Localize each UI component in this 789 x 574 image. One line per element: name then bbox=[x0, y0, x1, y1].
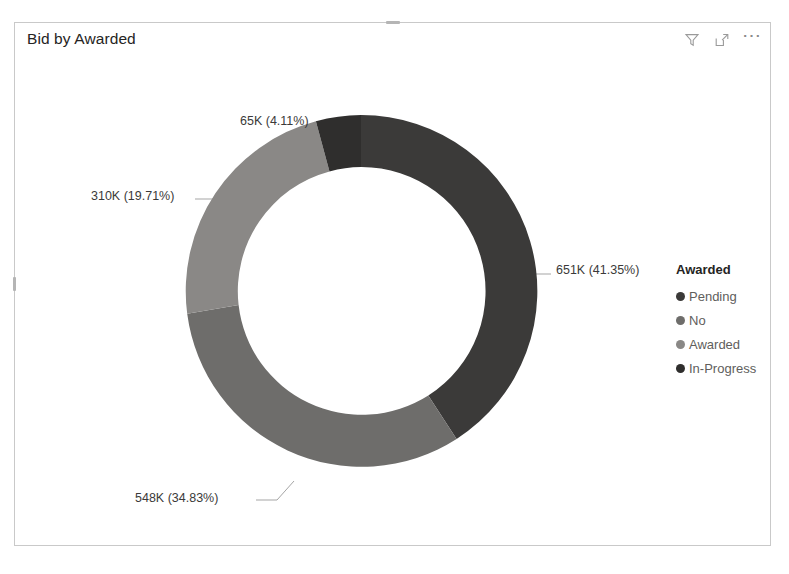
chart-plot-area: 65K (4.11%) 310K (19.71%) 548K (34.83%) … bbox=[15, 57, 770, 545]
legend-item-in-progress[interactable]: In-Progress bbox=[676, 356, 772, 380]
visual-card[interactable]: Bid by Awarded ⋯ bbox=[14, 22, 771, 546]
data-label-no: 548K (34.83%) bbox=[135, 491, 218, 505]
page-title: Bid by Awarded bbox=[27, 30, 136, 48]
legend-item-label: In-Progress bbox=[689, 361, 756, 376]
donut-slice-no[interactable] bbox=[187, 305, 456, 467]
visual-header: Bid by Awarded ⋯ bbox=[15, 23, 770, 57]
more-options-icon[interactable]: ⋯ bbox=[743, 31, 760, 48]
data-label-awarded: 310K (19.71%) bbox=[91, 189, 174, 203]
legend-color-dot bbox=[676, 316, 685, 325]
legend-item-pending[interactable]: Pending bbox=[676, 284, 772, 308]
donut-chart-svg[interactable] bbox=[175, 105, 547, 477]
legend-item-awarded[interactable]: Awarded bbox=[676, 332, 772, 356]
legend-color-dot bbox=[676, 292, 685, 301]
legend-item-label: Awarded bbox=[689, 337, 740, 352]
donut-chart[interactable] bbox=[175, 105, 547, 477]
legend-item-label: No bbox=[689, 313, 706, 328]
filter-icon[interactable] bbox=[683, 31, 700, 48]
legend-item-label: Pending bbox=[689, 289, 737, 304]
data-label-in-progress: 65K (4.11%) bbox=[240, 114, 309, 128]
legend-title: Awarded bbox=[676, 262, 772, 277]
donut-slice-awarded[interactable] bbox=[186, 121, 330, 314]
legend-color-dot bbox=[676, 364, 685, 373]
more-options-glyph: ⋯ bbox=[742, 33, 762, 47]
legend-color-dot bbox=[676, 340, 685, 349]
focus-mode-icon[interactable] bbox=[713, 31, 730, 48]
donut-slice-pending[interactable] bbox=[361, 115, 537, 439]
visual-header-actions: ⋯ bbox=[683, 31, 760, 48]
chart-legend: Awarded Pending No Awarded In-Progress bbox=[676, 262, 772, 380]
legend-item-no[interactable]: No bbox=[676, 308, 772, 332]
data-label-pending: 651K (41.35%) bbox=[556, 263, 639, 277]
